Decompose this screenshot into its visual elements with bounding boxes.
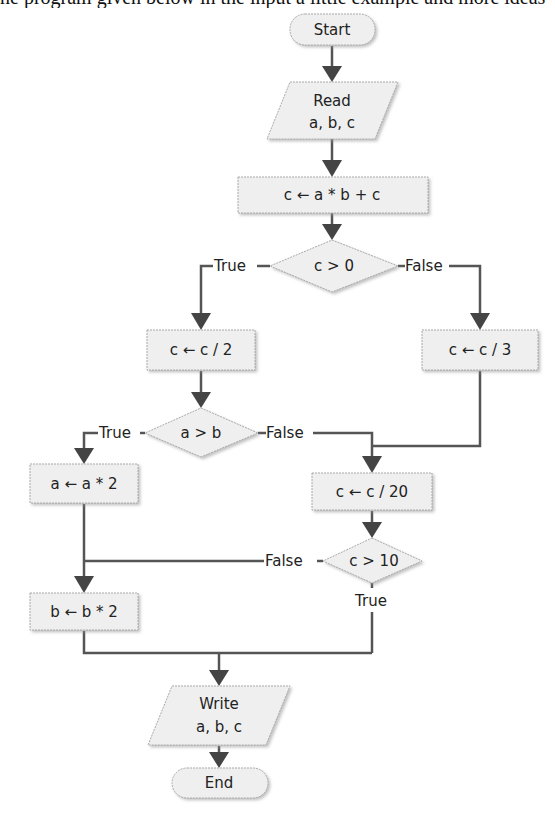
write-label: Write xyxy=(199,695,239,713)
div3-label: c ← c / 3 xyxy=(449,341,512,359)
decision-c-gt-10-label: c > 10 xyxy=(349,552,398,570)
end-node: End xyxy=(172,768,268,798)
decision-a-gt-b-true: True xyxy=(98,424,131,442)
decision-c-gt-10-false: False xyxy=(265,552,303,570)
process-node-b-double: b ← b * 2 xyxy=(30,593,138,630)
assign-c-label: c ← a * b + c xyxy=(284,186,380,204)
decision-a-gt-b-false: False xyxy=(266,424,304,442)
process-node-div3: c ← c / 3 xyxy=(422,330,538,370)
a-double-label: a ← a * 2 xyxy=(50,475,117,493)
decision-node-a-gt-b: a > b True False xyxy=(98,408,304,457)
read-input-node: Read a, b, c xyxy=(267,82,398,139)
process-node-div2: c ← c / 2 xyxy=(147,330,255,370)
decision-a-gt-b-label: a > b xyxy=(181,424,222,442)
process-node-a-double: a ← a * 2 xyxy=(30,464,138,503)
connectors xyxy=(74,46,490,768)
process-node-assign-c: c ← a * b + c xyxy=(238,177,428,213)
decision-c-gt-10-true: True xyxy=(354,592,387,610)
decision-c-gt-0-true: True xyxy=(213,257,246,275)
end-label: End xyxy=(205,774,234,792)
write-variables: a, b, c xyxy=(196,718,242,736)
div20-label: c ← c / 20 xyxy=(336,483,408,501)
decision-node-c-gt-10: c > 10 False True xyxy=(265,538,422,610)
process-node-div20: c ← c / 20 xyxy=(312,473,432,510)
start-node: Start xyxy=(290,14,375,45)
div2-label: c ← c / 2 xyxy=(170,341,233,359)
flowchart: Start Read a, b, c c ← a * b + c c > 0 T… xyxy=(0,0,555,819)
decision-c-gt-0-false: False xyxy=(405,257,443,275)
b-double-label: b ← b * 2 xyxy=(50,603,118,621)
start-label: Start xyxy=(314,21,351,39)
read-variables: a, b, c xyxy=(309,114,355,132)
read-label: Read xyxy=(313,92,351,110)
decision-c-gt-0-label: c > 0 xyxy=(314,257,354,275)
decision-node-c-gt-0: c > 0 True False xyxy=(213,240,443,292)
write-output-node: Write a, b, c xyxy=(148,686,290,745)
